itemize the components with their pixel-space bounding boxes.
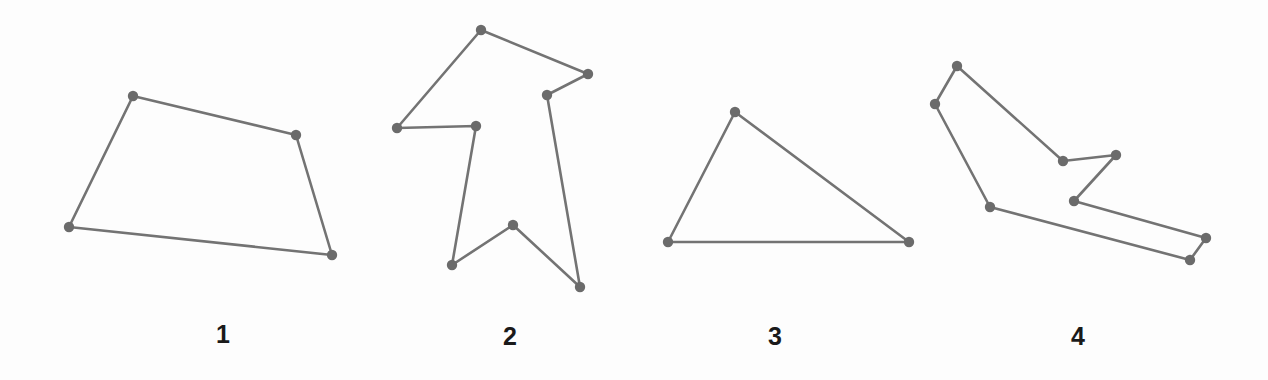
figure-canvas: 1 2 3 4 (0, 0, 1268, 380)
vertex-dot[interactable] (1185, 255, 1195, 265)
vertex-dot[interactable] (542, 90, 552, 100)
shape-group-3 (663, 107, 914, 247)
vertex-dot[interactable] (985, 202, 995, 212)
vertex-dot[interactable] (930, 99, 940, 109)
vertex-dot[interactable] (447, 260, 457, 270)
vertex-dot[interactable] (663, 237, 673, 247)
vertex-dot[interactable] (392, 123, 402, 133)
vertex-dot[interactable] (64, 222, 74, 232)
vertex-dot[interactable] (1201, 233, 1211, 243)
vertex-dot[interactable] (583, 69, 593, 79)
vertex-dot[interactable] (952, 61, 962, 71)
shape-group-1 (64, 91, 337, 260)
vertex-dot[interactable] (730, 107, 740, 117)
vertex-dot[interactable] (476, 25, 486, 35)
shape-label-4: 4 (1071, 322, 1085, 351)
vertex-dot[interactable] (1111, 150, 1121, 160)
shape-label-2: 2 (503, 322, 517, 351)
vertex-layer-1 (64, 91, 337, 260)
vertex-layer-4 (930, 61, 1211, 265)
vertex-dot[interactable] (291, 130, 301, 140)
vertex-dot[interactable] (1058, 156, 1068, 166)
polygon-quadrilateral[interactable] (69, 96, 332, 255)
shape-label-3: 3 (768, 322, 782, 351)
vertex-dot[interactable] (508, 220, 518, 230)
shape-group-2 (392, 25, 593, 292)
polygon-arrow-banner[interactable] (397, 30, 588, 287)
vertex-dot[interactable] (128, 91, 138, 101)
vertex-dot[interactable] (327, 250, 337, 260)
shape-label-1: 1 (216, 320, 230, 349)
shape-group-4 (930, 61, 1211, 265)
polygon-triangle[interactable] (668, 112, 909, 242)
vertex-dot[interactable] (575, 282, 585, 292)
vertex-dot[interactable] (1069, 196, 1079, 206)
vertex-dot[interactable] (471, 121, 481, 131)
vertex-dot[interactable] (904, 237, 914, 247)
polygon-zigzag-band[interactable] (935, 66, 1206, 260)
